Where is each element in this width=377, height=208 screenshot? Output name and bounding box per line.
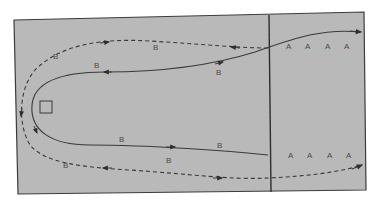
player-b: B <box>94 61 99 70</box>
player-b: B <box>53 52 58 61</box>
player-b: B <box>217 141 222 150</box>
player-a: A <box>288 151 294 160</box>
player-b: B <box>166 156 171 165</box>
player-b: B <box>119 135 124 144</box>
player-b: B <box>216 68 221 77</box>
player-a: A <box>325 42 331 51</box>
player-a: A <box>305 42 311 51</box>
player-a: A <box>286 42 292 51</box>
player-b: B <box>63 161 68 170</box>
player-a: A <box>346 151 352 160</box>
play-diagram: A A A A A A A A B B B B B B B B <box>0 0 377 208</box>
player-a: A <box>307 151 313 160</box>
player-a: A <box>327 151 333 160</box>
player-b: B <box>153 43 158 52</box>
player-a: A <box>344 42 350 51</box>
